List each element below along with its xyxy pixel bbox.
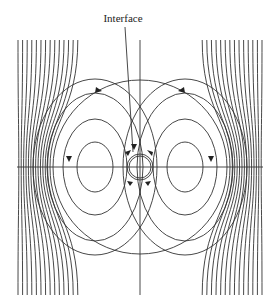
interface-leader-line (125, 27, 133, 152)
streamline (50, 40, 78, 295)
streamline (18, 40, 19, 295)
arrow-icon (147, 150, 153, 156)
streamline (253, 40, 257, 295)
streamline (48, 40, 74, 295)
streamline (257, 40, 258, 295)
arrow-icon (178, 87, 185, 93)
arrow-icon (95, 87, 102, 93)
arrow-icon (127, 181, 133, 186)
interface-label: Interface (103, 12, 142, 24)
arrow-icon (131, 144, 137, 150)
arrow-icon (66, 156, 72, 162)
arrow-icon (208, 156, 214, 162)
streamline (24, 40, 28, 295)
streamline (202, 40, 230, 295)
arrow-icon (145, 181, 151, 186)
flow-diagram: Interface (0, 0, 280, 308)
streamline (261, 40, 262, 295)
streamline (21, 40, 22, 295)
streamline (207, 40, 233, 295)
